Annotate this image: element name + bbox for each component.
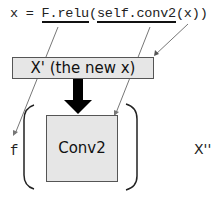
x-pointer-arrowhead bbox=[154, 50, 159, 56]
down-arrow-head bbox=[64, 100, 92, 114]
x-double-prime-label: X'' bbox=[194, 141, 211, 157]
x-pointer-line bbox=[155, 24, 188, 55]
down-arrow-shaft bbox=[73, 79, 83, 101]
relu-pointer-arrowhead bbox=[13, 130, 18, 136]
f-label: f bbox=[10, 143, 18, 159]
new-x-box: X' (the new x) bbox=[12, 57, 154, 79]
conv2-box: Conv2 bbox=[46, 115, 118, 182]
right-paren bbox=[126, 104, 137, 190]
left-paren bbox=[24, 105, 34, 189]
